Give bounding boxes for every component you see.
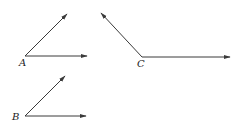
diagram-canvas: A C B [0, 0, 238, 132]
angle-a: A [18, 14, 87, 68]
angle-c: C [101, 13, 230, 69]
angle-b-label: B [11, 111, 19, 122]
angle-b: B [11, 76, 86, 122]
angle-c-ray-upper [101, 13, 142, 57]
angle-c-label: C [137, 58, 145, 69]
angles-diagram: A C B [0, 0, 238, 132]
angle-a-ray-upper [25, 14, 67, 56]
angle-a-label: A [18, 57, 26, 68]
angle-b-ray-upper [25, 76, 65, 116]
